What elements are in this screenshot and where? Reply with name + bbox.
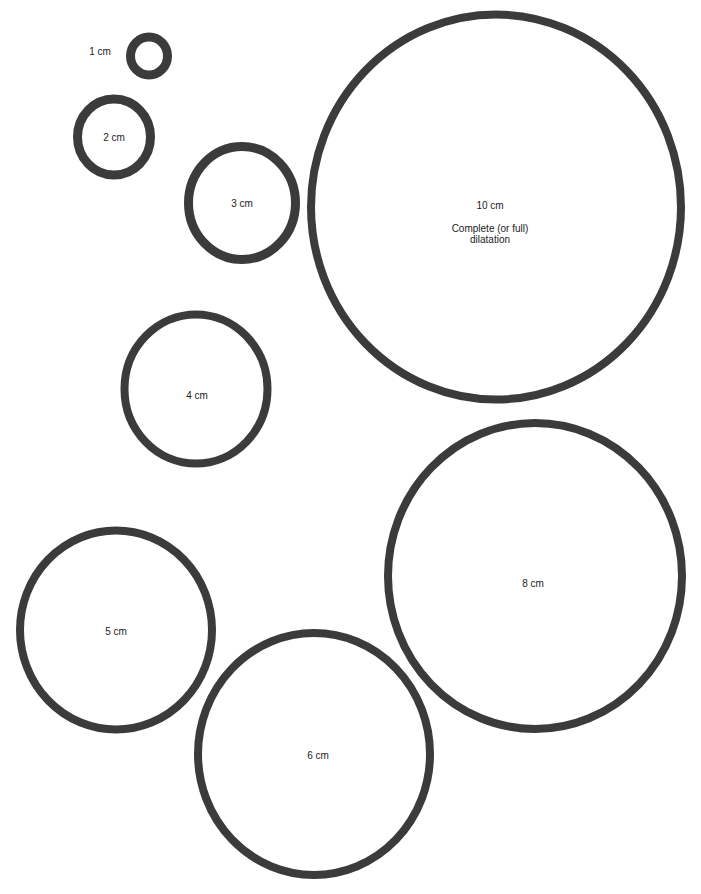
label-5cm-text: 5 cm [105,626,127,637]
ring-8cm [388,423,682,729]
dilatation-diagram: 1 cm 2 cm 3 cm 10 cm Complete (or full) … [0,0,701,894]
label-1cm-text: 1 cm [89,46,111,57]
label-6cm: 6 cm [307,750,329,761]
label-3cm: 3 cm [231,198,253,209]
label-10cm-description: Complete (or full) dilatation [452,223,529,245]
label-3cm-text: 3 cm [231,198,253,209]
label-2cm: 2 cm [103,132,125,143]
label-10cm-text: 10 cm [476,200,503,211]
label-8cm-text: 8 cm [522,578,544,589]
label-10cm: 10 cm Complete (or full) dilatation [452,200,529,245]
label-2cm-text: 2 cm [103,132,125,143]
label-1cm: 1 cm [89,46,111,57]
label-4cm-text: 4 cm [186,390,208,401]
label-4cm: 4 cm [186,390,208,401]
label-6cm-text: 6 cm [307,750,329,761]
label-5cm: 5 cm [105,626,127,637]
label-8cm: 8 cm [522,578,544,589]
ring-1cm [131,37,168,75]
